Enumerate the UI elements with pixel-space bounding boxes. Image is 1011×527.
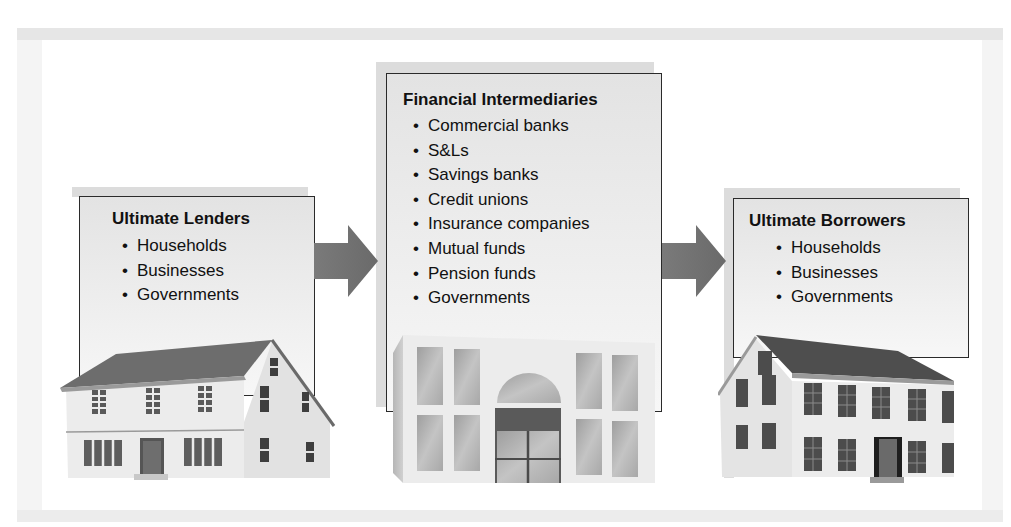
- list-item: Businesses: [122, 259, 239, 284]
- list-item: Insurance companies: [413, 212, 590, 237]
- list-item: Governments: [413, 286, 590, 311]
- intermediaries-list: Commercial banks S&Ls Savings banks Cred…: [413, 114, 590, 311]
- colonial-house-icon: [718, 333, 980, 485]
- list-item: S&Ls: [413, 139, 590, 164]
- arrow-right-icon: [314, 225, 380, 297]
- list-item: Households: [776, 236, 893, 261]
- list-item: Businesses: [776, 261, 893, 286]
- list-item: Governments: [776, 285, 893, 310]
- list-item: Mutual funds: [413, 237, 590, 262]
- lenders-list: Households Businesses Governments: [122, 234, 239, 308]
- borrowers-title: Ultimate Borrowers: [749, 211, 906, 231]
- arrow-right-icon: [662, 225, 728, 297]
- intermediaries-title: Financial Intermediaries: [403, 90, 598, 110]
- list-item: Commercial banks: [413, 114, 590, 139]
- borrowers-list: Households Businesses Governments: [776, 236, 893, 310]
- bank-building-icon: [393, 333, 655, 483]
- list-item: Credit unions: [413, 188, 590, 213]
- list-item: Households: [122, 234, 239, 259]
- house-icon: [58, 338, 338, 484]
- list-item: Pension funds: [413, 262, 590, 287]
- lenders-title: Ultimate Lenders: [112, 209, 250, 229]
- frame-bottom-band: [17, 510, 1003, 522]
- list-item: Savings banks: [413, 163, 590, 188]
- list-item: Governments: [122, 283, 239, 308]
- frame-top-band: [17, 28, 1003, 40]
